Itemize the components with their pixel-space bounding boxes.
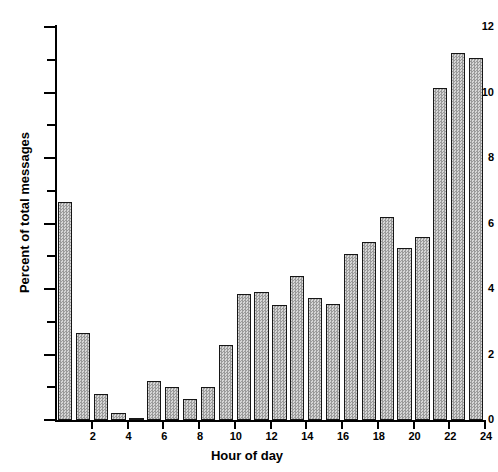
x-tick-label: 2 (81, 431, 105, 442)
x-tick-label: 10 (224, 431, 248, 442)
bar (111, 413, 125, 420)
bar (254, 292, 268, 420)
y-tick-minor (47, 190, 55, 192)
x-tick-major (341, 422, 343, 429)
bar (415, 237, 429, 420)
x-tick-major (162, 422, 164, 429)
x-tick-label: 8 (188, 431, 212, 442)
x-tick-label: 6 (152, 431, 176, 442)
bar (129, 418, 143, 420)
y-tick-minor (47, 321, 55, 323)
x-tick-major (413, 422, 415, 429)
x-tick-label: 4 (117, 431, 141, 442)
x-tick-label: 14 (295, 431, 319, 442)
bar (272, 305, 286, 420)
bar (290, 276, 304, 420)
bar (147, 381, 161, 420)
bar (219, 345, 233, 420)
bar (397, 248, 411, 420)
bar (94, 394, 108, 420)
y-tick-major (44, 354, 55, 356)
bar (326, 304, 340, 420)
bar (362, 242, 376, 420)
plot-area (56, 27, 485, 420)
y-tick-major (44, 288, 55, 290)
y-tick-minor (47, 255, 55, 257)
bar (344, 254, 358, 420)
x-tick-label: 22 (438, 431, 462, 442)
bar (451, 53, 465, 420)
y-tick-major (44, 26, 55, 28)
x-tick-major (448, 422, 450, 429)
x-tick-major (270, 422, 272, 429)
y-tick-minor (47, 124, 55, 126)
x-tick-label: 20 (403, 431, 427, 442)
bar (58, 202, 72, 420)
y-tick-minor (47, 59, 55, 61)
x-tick-major (305, 422, 307, 429)
bar (469, 58, 483, 420)
x-axis-title: Hour of day (0, 448, 494, 463)
x-tick-major (234, 422, 236, 429)
bar (237, 294, 251, 420)
bar (76, 333, 90, 420)
y-tick-minor (47, 386, 55, 388)
y-axis-title: Percent of total messages (17, 93, 32, 333)
y-tick-major (44, 419, 55, 421)
x-tick-major (377, 422, 379, 429)
x-tick-label: 18 (367, 431, 391, 442)
x-tick-major (198, 422, 200, 429)
x-tick-label: 16 (331, 431, 355, 442)
bar (165, 387, 179, 420)
x-tick-major (91, 422, 93, 429)
x-tick-label: 12 (260, 431, 284, 442)
bar (380, 217, 394, 420)
x-tick-major (484, 422, 486, 429)
bar (201, 387, 215, 420)
bar (433, 88, 447, 420)
x-tick-label: 24 (474, 431, 498, 442)
y-tick-major (44, 223, 55, 225)
bar (183, 399, 197, 420)
y-tick-major (44, 157, 55, 159)
y-tick-major (44, 92, 55, 94)
bar (308, 298, 322, 420)
x-tick-major (127, 422, 129, 429)
